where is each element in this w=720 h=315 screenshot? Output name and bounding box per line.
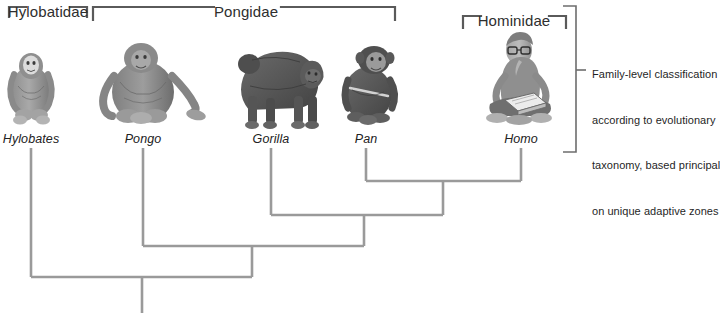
labels-layer: Hylobatidae Pongidae Hominidae Hylobates… <box>0 0 720 315</box>
annotation-line-1: Family-level classification <box>592 67 718 82</box>
bracket-label-pongidae: Pongidae <box>198 3 294 21</box>
classification-annotation: Family-level classification according to… <box>592 37 718 249</box>
primate-classification-figure: Hylobatidae Pongidae Hominidae Hylobates… <box>0 0 720 315</box>
genus-label-pongo: Pongo <box>83 132 203 147</box>
genus-label-hylobates: Hylobates <box>0 132 91 147</box>
bracket-label-hylobatidae: Hylobatidae <box>0 3 96 21</box>
annotation-line-4: on unique adaptive zones <box>592 204 718 219</box>
annotation-line-2: according to evolutionary <box>592 113 718 128</box>
genus-label-homo: Homo <box>461 132 581 147</box>
bracket-label-hominidae: Hominidae <box>466 12 562 30</box>
genus-label-pan: Pan <box>306 132 426 147</box>
annotation-line-3: taxonomy, based principally <box>592 158 718 173</box>
